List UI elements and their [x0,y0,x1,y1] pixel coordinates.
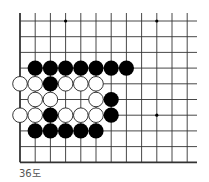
black-stone [104,61,119,76]
black-stone [88,61,103,76]
white-stone [89,77,104,92]
white-stone [28,108,43,123]
black-stone [43,123,58,138]
white-stone [28,92,43,107]
black-stone [43,76,58,91]
black-stone [73,61,88,76]
white-stone [58,77,73,92]
black-stone [88,123,103,138]
white-stone [74,77,89,92]
black-stone [104,108,119,123]
black-stone [28,123,43,138]
white-stone [89,92,104,107]
black-stone [119,61,134,76]
star-point-icon [64,19,67,22]
black-stone [43,108,58,123]
white-stone [74,108,89,123]
white-stone [28,77,43,92]
black-stone [28,61,43,76]
go-board [0,0,209,170]
black-stone [58,123,73,138]
white-stone [89,108,104,123]
white-stone [13,108,28,123]
white-stone [13,77,28,92]
diagram-caption: 36도 [19,168,41,180]
black-stone [104,92,119,107]
star-point-icon [155,19,158,22]
star-point-icon [155,114,158,117]
black-stone [73,123,88,138]
black-stone [43,61,58,76]
black-stone [58,61,73,76]
white-stone [43,92,58,107]
white-stone [58,108,73,123]
